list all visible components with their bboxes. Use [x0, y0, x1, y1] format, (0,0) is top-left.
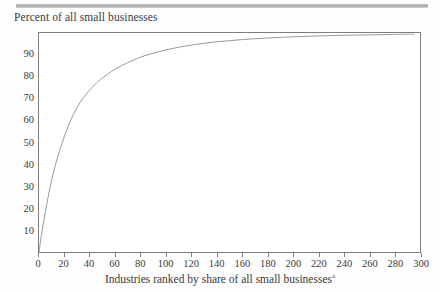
y-tick-label: 70	[12, 93, 34, 103]
x-axis-labels: 0204060801001201401601802002202402602803…	[38, 258, 421, 272]
chart-title: Percent of all small businesses	[14, 11, 158, 23]
chart-curve-svg	[39, 33, 420, 252]
x-tick-mark	[89, 253, 90, 257]
chart-page: Percent of all small businesses 10203040…	[0, 0, 440, 292]
x-axis-footnote-marker: a	[332, 272, 335, 280]
x-tick-mark	[344, 253, 345, 257]
header-rule	[16, 4, 428, 8]
x-tick-mark	[293, 253, 294, 257]
y-tick-label: 20	[12, 204, 34, 214]
y-tick-label: 40	[12, 160, 34, 170]
y-tick-label: 90	[12, 49, 34, 59]
x-tick-mark	[140, 253, 141, 257]
x-tick-mark	[217, 253, 218, 257]
x-tick-mark	[370, 253, 371, 257]
x-tick-mark	[319, 253, 320, 257]
x-axis-title-text: Industries ranked by share of all small …	[105, 273, 332, 285]
x-tick-mark	[268, 253, 269, 257]
y-tick-label: 30	[12, 182, 34, 192]
x-tick-mark	[64, 253, 65, 257]
x-tick-mark	[166, 253, 167, 257]
x-axis-title: Industries ranked by share of all small …	[0, 272, 440, 285]
x-tick-mark	[395, 253, 396, 257]
x-tick-mark	[421, 253, 422, 257]
y-axis-labels: 102030405060708090	[10, 32, 34, 253]
x-tick-mark	[242, 253, 243, 257]
x-tick-mark	[115, 253, 116, 257]
x-tick-mark	[38, 253, 39, 257]
x-tick-label: 300	[406, 258, 436, 270]
y-tick-label: 60	[12, 115, 34, 125]
y-tick-label: 10	[12, 226, 34, 236]
x-tick-mark	[191, 253, 192, 257]
y-tick-label: 50	[12, 138, 34, 148]
y-tick-label: 80	[12, 71, 34, 81]
series-line-cumulative	[39, 34, 414, 252]
plot-area	[38, 32, 421, 253]
